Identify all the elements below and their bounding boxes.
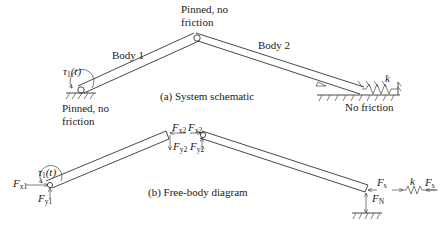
spring-icon <box>362 84 398 94</box>
fn-label: FN <box>371 192 385 206</box>
base-pin-label-line2: friction <box>62 115 95 127</box>
fbd-body1-bar <box>46 131 169 188</box>
fs-body-label: Fs <box>376 176 387 190</box>
spring-constant-label: k <box>385 72 391 84</box>
fx2-body2-label: Fx2 <box>187 121 202 135</box>
free-body-diagram: τ1(t) Fx1 Fy1 Fx2 Fy2 Fx2 Fy2 (b) Free-b… <box>12 121 438 219</box>
fbd-spring-constant-label: k <box>410 175 416 187</box>
fx1-label: Fx1 <box>12 177 27 191</box>
fx2-body1-label: Fx2 <box>171 121 186 135</box>
body1-label: Body 1 <box>112 49 144 61</box>
body2-label: Body 2 <box>258 39 290 51</box>
top-pin-label-line2: friction <box>181 16 214 28</box>
base-pin-joint <box>78 87 84 93</box>
body1-bar <box>78 33 199 93</box>
fy2-body1-label: Fy2 <box>172 140 187 154</box>
top-pin-joint <box>194 35 200 41</box>
fbd-ground-hatch <box>352 213 382 219</box>
fbd-body2-bar <box>200 131 368 192</box>
no-friction-label: No friction <box>345 101 394 113</box>
torque-label: τ1(t) <box>63 65 81 79</box>
system-schematic: Pinned, no friction Body 1 Body 2 τ1(t) … <box>62 3 401 127</box>
fbd-torque-label: τ1(t) <box>38 166 56 180</box>
fbd-caption: (b) Free-body diagram <box>148 186 248 199</box>
left-ground-hatch <box>66 93 96 99</box>
schematic-caption: (a) System schematic <box>160 90 254 103</box>
top-pin-label-line1: Pinned, no <box>181 3 229 15</box>
two-body-mechanism-diagram: Pinned, no friction Body 1 Body 2 τ1(t) … <box>0 0 442 232</box>
base-pin-label-line1: Pinned, no <box>62 102 110 114</box>
fbd-body1-pin <box>47 182 52 187</box>
spring-wall <box>398 82 401 95</box>
fs-spring-label: Fs <box>424 176 435 190</box>
